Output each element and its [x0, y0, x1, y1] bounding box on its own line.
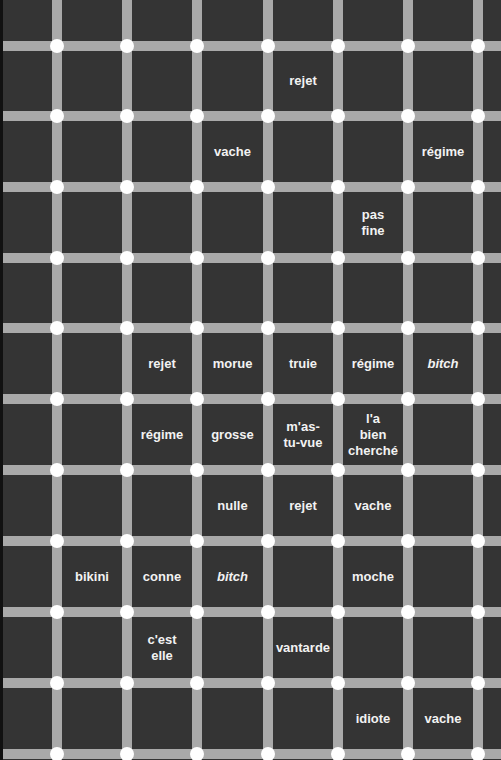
- word-cell: bitch: [413, 334, 473, 394]
- intersection-dot: [471, 251, 485, 265]
- intersection-dot: [331, 534, 345, 548]
- intersection-dot: [50, 534, 64, 548]
- intersection-dot: [401, 180, 415, 194]
- word-cell: morue: [203, 334, 263, 394]
- intersection-dot: [401, 39, 415, 53]
- intersection-dot: [50, 605, 64, 619]
- word-cell: m'as- tu-vue: [273, 405, 333, 465]
- intersection-dot: [331, 180, 345, 194]
- intersection-dot: [50, 251, 64, 265]
- intersection-dot: [471, 605, 485, 619]
- intersection-dot: [190, 463, 204, 477]
- intersection-dot: [190, 392, 204, 406]
- intersection-dot: [471, 747, 485, 760]
- intersection-dot: [471, 109, 485, 123]
- intersection-dot: [190, 747, 204, 760]
- intersection-dot: [190, 39, 204, 53]
- word-cell: régime: [132, 405, 192, 465]
- intersection-dot: [331, 39, 345, 53]
- word-cell: c'est elle: [132, 618, 192, 678]
- intersection-dot: [331, 109, 345, 123]
- word-cell: truie: [273, 334, 333, 394]
- intersection-dot: [261, 747, 275, 760]
- intersection-dot: [120, 676, 134, 690]
- intersection-dot: [261, 463, 275, 477]
- grid-horizontal-line: [0, 749, 501, 759]
- grid-horizontal-line: [0, 678, 501, 688]
- intersection-dot: [401, 321, 415, 335]
- intersection-dot: [120, 321, 134, 335]
- intersection-dot: [401, 605, 415, 619]
- intersection-dot: [190, 180, 204, 194]
- intersection-dot: [261, 109, 275, 123]
- word-cell: vache: [203, 122, 263, 182]
- intersection-dot: [261, 534, 275, 548]
- intersection-dot: [401, 534, 415, 548]
- intersection-dot: [120, 109, 134, 123]
- intersection-dot: [261, 676, 275, 690]
- intersection-dot: [331, 392, 345, 406]
- intersection-dot: [120, 39, 134, 53]
- intersection-dot: [190, 321, 204, 335]
- intersection-dot: [50, 392, 64, 406]
- intersection-dot: [120, 605, 134, 619]
- intersection-dot: [471, 180, 485, 194]
- grid-horizontal-line: [0, 253, 501, 263]
- word-cell: bikini: [62, 547, 122, 607]
- intersection-dot: [50, 463, 64, 477]
- intersection-dot: [190, 109, 204, 123]
- grid-horizontal-line: [0, 465, 501, 475]
- word-cell: idiote: [343, 689, 403, 749]
- intersection-dot: [190, 251, 204, 265]
- word-cell: rejet: [132, 334, 192, 394]
- intersection-dot: [331, 321, 345, 335]
- intersection-dot: [50, 109, 64, 123]
- word-cell: vache: [413, 689, 473, 749]
- grid-horizontal-line: [0, 607, 501, 617]
- word-cell: pas fine: [343, 193, 403, 253]
- intersection-dot: [401, 747, 415, 760]
- intersection-dot: [261, 39, 275, 53]
- intersection-dot: [471, 392, 485, 406]
- word-cell: vantarde: [273, 618, 333, 678]
- grid-horizontal-line: [0, 323, 501, 333]
- intersection-dot: [261, 605, 275, 619]
- grid-horizontal-line: [0, 111, 501, 121]
- intersection-dot: [471, 321, 485, 335]
- intersection-dot: [331, 747, 345, 760]
- intersection-dot: [50, 676, 64, 690]
- intersection-dot: [50, 180, 64, 194]
- word-cell: conne: [132, 547, 192, 607]
- word-cell: régime: [343, 334, 403, 394]
- intersection-dot: [50, 321, 64, 335]
- intersection-dot: [120, 534, 134, 548]
- grid-horizontal-line: [0, 41, 501, 51]
- word-cell: nulle: [203, 476, 263, 536]
- intersection-dot: [120, 463, 134, 477]
- grid-horizontal-line: [0, 394, 501, 404]
- intersection-dot: [190, 534, 204, 548]
- intersection-dot: [120, 392, 134, 406]
- word-cell: vache: [343, 476, 403, 536]
- intersection-dot: [50, 39, 64, 53]
- intersection-dot: [120, 747, 134, 760]
- intersection-dot: [471, 463, 485, 477]
- intersection-dot: [190, 676, 204, 690]
- intersection-dot: [401, 676, 415, 690]
- word-cell: bitch: [203, 547, 263, 607]
- intersection-dot: [471, 676, 485, 690]
- intersection-dot: [50, 747, 64, 760]
- intersection-dot: [120, 180, 134, 194]
- intersection-dot: [331, 605, 345, 619]
- intersection-dot: [331, 676, 345, 690]
- grid-horizontal-line: [0, 182, 501, 192]
- intersection-dot: [401, 392, 415, 406]
- intersection-dot: [471, 39, 485, 53]
- intersection-dot: [261, 321, 275, 335]
- intersection-dot: [261, 251, 275, 265]
- grid-horizontal-line: [0, 536, 501, 546]
- intersection-dot: [120, 251, 134, 265]
- word-cell: grosse: [203, 405, 263, 465]
- intersection-dot: [401, 251, 415, 265]
- word-cell: rejet: [273, 476, 333, 536]
